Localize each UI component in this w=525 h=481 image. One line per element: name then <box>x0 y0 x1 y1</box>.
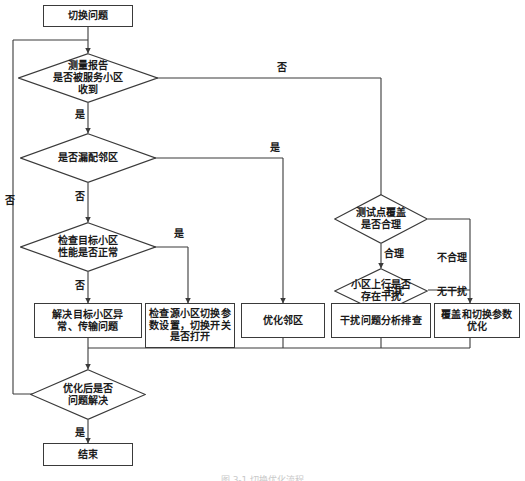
node-fix-target-cell[interactable]: 解决目标小区异常、传输问题 <box>34 303 142 338</box>
diamond-shape <box>30 369 146 420</box>
edge-label-perf-yes: 是 <box>174 229 184 239</box>
diamond-shape <box>20 133 156 183</box>
edge-label-solved-no: 否 <box>5 196 15 206</box>
diamond-shape <box>18 53 158 103</box>
node-optimize-neighbor[interactable]: 优化邻区 <box>241 303 325 338</box>
node-check-source-params-label: 检查源小区切换参数设置，切换开关是否打开 <box>149 308 231 343</box>
node-start-label: 切换问题 <box>68 10 109 22</box>
edge-label-cover-unreasonable: 不合理 <box>437 253 467 263</box>
node-target-cell-performance-decision[interactable]: 检查目标小区性能是否正常 <box>20 222 156 272</box>
edge-label-solved-yes: 是 <box>75 428 85 438</box>
node-measure-report-decision[interactable]: 测量报告是否被服务小区收到 <box>18 53 158 103</box>
node-problem-solved-decision[interactable]: 优化后是否问题解决 <box>30 369 146 420</box>
node-interference-analysis[interactable]: 干扰问题分析排查 <box>331 303 431 338</box>
edge-label-measure-yes: 是 <box>75 110 85 120</box>
edge-label-interference-no: 无干扰 <box>437 287 467 297</box>
flowchart-canvas: 切换问题 测量报告是否被服务小区收到 是否漏配邻区 检查目标小区性能是否正常 测… <box>0 0 525 481</box>
node-end[interactable]: 结束 <box>43 443 133 466</box>
edge-label-neighbor-yes: 是 <box>270 143 280 153</box>
figure-caption: 图 3-1 切换优化流程 <box>0 473 525 481</box>
node-missing-neighbor-decision[interactable]: 是否漏配邻区 <box>20 133 156 183</box>
node-test-point-coverage-decision[interactable]: 测试点覆盖是否合理 <box>334 194 428 244</box>
edge-label-perf-no: 否 <box>75 281 85 291</box>
edge-label-interference-yes: 干扰 <box>384 287 404 297</box>
edge-label-measure-no: 否 <box>277 63 287 73</box>
node-interference-analysis-label: 干扰问题分析排查 <box>340 315 422 327</box>
node-check-source-params[interactable]: 检查源小区切换参数设置，切换开关是否打开 <box>145 303 235 348</box>
node-end-label: 结束 <box>78 449 98 461</box>
node-optimize-neighbor-label: 优化邻区 <box>263 315 304 327</box>
diamond-shape <box>334 194 428 244</box>
node-fix-target-cell-label: 解决目标小区异常、传输问题 <box>52 309 123 333</box>
node-start[interactable]: 切换问题 <box>43 5 133 27</box>
diamond-shape <box>20 222 156 272</box>
node-coverage-ho-params-label: 覆盖和切换参数优化 <box>441 309 512 333</box>
node-coverage-ho-params[interactable]: 覆盖和切换参数优化 <box>434 303 520 338</box>
edge-label-neighbor-no: 否 <box>75 192 85 202</box>
edge-label-cover-reasonable: 合理 <box>384 249 404 259</box>
